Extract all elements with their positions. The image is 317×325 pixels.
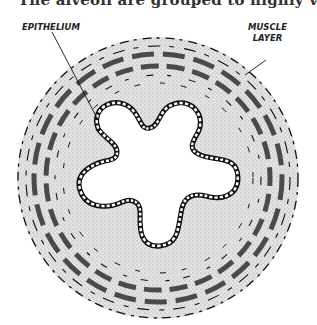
gland-cross-section-diagram xyxy=(0,0,317,325)
muscle-layer-leader-line xyxy=(245,60,266,75)
label-muscle-line1: MUSCLE xyxy=(248,22,287,33)
label-epithelium: EPITHELIUM xyxy=(22,22,80,33)
label-muscle-line2: LAYER xyxy=(248,33,287,44)
label-muscle-layer: MUSCLE LAYER xyxy=(248,22,287,44)
